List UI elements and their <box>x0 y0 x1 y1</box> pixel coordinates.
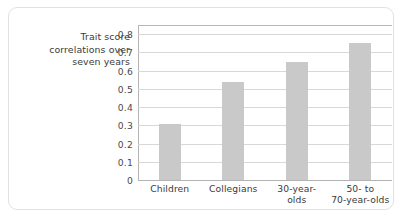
bar <box>286 62 308 180</box>
x-category-label: 30-year-olds <box>265 184 329 205</box>
bar <box>349 43 371 180</box>
x-category-label-line: olds <box>265 195 329 206</box>
y-tick-label: 0.4 <box>118 102 133 113</box>
y-tick-label: 0.1 <box>118 156 133 167</box>
x-category-label-line: 30-year- <box>265 184 329 195</box>
x-category-label: Collegians <box>202 184 266 195</box>
x-category-label-line: 50- to <box>329 184 393 195</box>
y-axis-title-line-1: Trait score <box>26 31 130 44</box>
gridline <box>138 34 392 35</box>
y-tick-label: 0 <box>127 175 133 186</box>
x-axis-baseline <box>138 180 392 181</box>
x-category-label: 50- to70-year-olds <box>329 184 393 205</box>
y-tick-label: 0.8 <box>118 29 133 40</box>
y-axis-title: Trait score correlations over seven year… <box>26 31 130 69</box>
x-category-label-line: Children <box>138 184 202 195</box>
y-axis-title-line-2: correlations over <box>26 44 130 57</box>
x-category-label-line: Collegians <box>202 184 266 195</box>
y-tick-label: 0.6 <box>118 65 133 76</box>
y-tick-label: 0.3 <box>118 120 133 131</box>
x-category-label: Children <box>138 184 202 195</box>
y-tick-label: 0.7 <box>118 47 133 58</box>
bar <box>222 82 244 181</box>
figure-root: Trait score correlations over seven year… <box>0 0 406 223</box>
y-tick-label: 0.2 <box>118 138 133 149</box>
y-tick-label: 0.5 <box>118 83 133 94</box>
bar <box>159 124 181 181</box>
y-axis-title-line-3: seven years <box>26 56 130 69</box>
plot-area: 0.80.70.60.50.40.30.20.10 <box>138 25 392 180</box>
x-category-label-line: 70-year-olds <box>329 195 393 206</box>
